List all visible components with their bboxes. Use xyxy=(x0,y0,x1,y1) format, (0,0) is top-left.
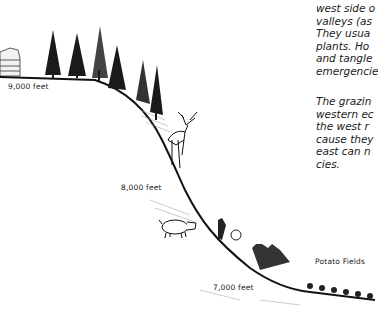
text-line: and tangle xyxy=(316,52,378,65)
text-line: They usua xyxy=(316,27,378,40)
hut-icon xyxy=(0,48,20,76)
elevation-label-9000: 9,000 feet xyxy=(8,82,49,91)
deer-icon xyxy=(168,112,197,168)
text-line: plants. Ho xyxy=(316,40,378,53)
conifer-tree-icons xyxy=(45,26,163,120)
text-line: emergencie xyxy=(316,65,378,78)
shrub-icons xyxy=(218,218,290,270)
potato-fields-label: Potato Fields xyxy=(315,257,365,266)
text-line: valleys (as xyxy=(316,15,378,28)
body-text-paragraph-1: west side o valleys (as They usua plants… xyxy=(316,2,378,77)
pig-icon xyxy=(159,220,196,238)
text-line: west side o xyxy=(316,2,378,15)
text-line: east can n xyxy=(316,145,374,158)
text-line: western ec xyxy=(316,108,374,121)
text-line: The grazin xyxy=(316,95,374,108)
elevation-label-8000: 8,000 feet xyxy=(121,183,162,192)
body-text-paragraph-2: The grazin western ec the west r cause t… xyxy=(316,95,374,170)
text-line: cies. xyxy=(316,158,374,171)
elevation-label-7000: 7,000 feet xyxy=(213,283,254,292)
text-line: cause they xyxy=(316,133,374,146)
text-line: the west r xyxy=(316,120,374,133)
